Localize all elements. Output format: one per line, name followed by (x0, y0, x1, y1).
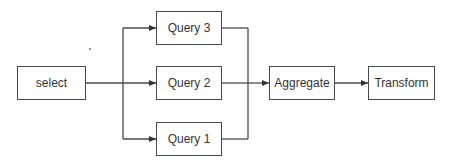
node-aggregate-label: Aggregate (274, 76, 329, 90)
flowchart-canvas: select Query 3 Query 2 Query 1 Aggregate… (0, 0, 452, 165)
node-select-label: select (36, 76, 67, 90)
node-transform-label: Transform (374, 76, 428, 90)
node-transform: Transform (368, 66, 435, 100)
node-query3-label: Query 3 (168, 21, 211, 35)
stray-dot (89, 48, 91, 50)
node-query3: Query 3 (156, 11, 222, 45)
node-query1-label: Query 1 (168, 132, 211, 146)
node-query1: Query 1 (156, 122, 222, 156)
node-select: select (17, 66, 86, 100)
node-aggregate: Aggregate (269, 66, 335, 100)
node-query2: Query 2 (156, 66, 222, 100)
node-query2-label: Query 2 (168, 76, 211, 90)
